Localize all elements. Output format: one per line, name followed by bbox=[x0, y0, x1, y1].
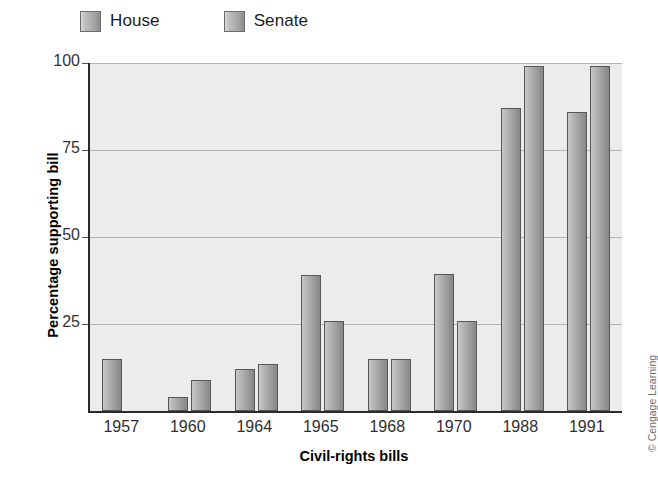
bar-house bbox=[368, 359, 388, 411]
bar-group bbox=[423, 63, 490, 411]
bar-group bbox=[356, 63, 423, 411]
legend-label-senate: Senate bbox=[254, 11, 308, 31]
legend-swatch-senate-icon bbox=[224, 11, 245, 32]
bar-senate bbox=[590, 66, 610, 411]
x-axis-title: Civil-rights bills bbox=[88, 448, 620, 464]
bar-senate bbox=[524, 66, 544, 411]
bar-house bbox=[434, 274, 454, 411]
y-tick-label: 75 bbox=[28, 139, 80, 157]
bar-group bbox=[489, 63, 556, 411]
bar-senate bbox=[457, 321, 477, 411]
legend-label-house: House bbox=[110, 11, 160, 31]
legend-swatch-house-icon bbox=[80, 11, 101, 32]
bar-house bbox=[301, 275, 321, 411]
y-tick-label: 50 bbox=[28, 226, 80, 244]
y-tick-label: 25 bbox=[28, 313, 80, 331]
bar-senate bbox=[324, 321, 344, 411]
bar-senate bbox=[258, 364, 278, 411]
plot-area bbox=[88, 63, 622, 413]
bar-group bbox=[223, 63, 290, 411]
bar-group bbox=[157, 63, 224, 411]
copyright-credit: © Cengage Learning bbox=[646, 282, 658, 452]
y-tick-label: 100 bbox=[28, 52, 80, 70]
bar-group bbox=[556, 63, 623, 411]
legend-item-house: House bbox=[80, 11, 160, 32]
bar-house bbox=[501, 108, 521, 411]
x-tick-label: 1991 bbox=[547, 418, 627, 436]
bar-group bbox=[90, 63, 157, 411]
bar-senate bbox=[391, 359, 411, 411]
bar-house bbox=[102, 359, 122, 411]
legend-item-senate: Senate bbox=[224, 11, 308, 32]
bar-group bbox=[290, 63, 357, 411]
y-axis-title: Percentage supporting bill bbox=[45, 75, 61, 415]
bar-senate bbox=[191, 380, 211, 411]
chart-legend: House Senate bbox=[80, 6, 308, 36]
bar-house bbox=[235, 369, 255, 411]
bar-house bbox=[567, 112, 587, 411]
bar-house bbox=[168, 397, 188, 411]
